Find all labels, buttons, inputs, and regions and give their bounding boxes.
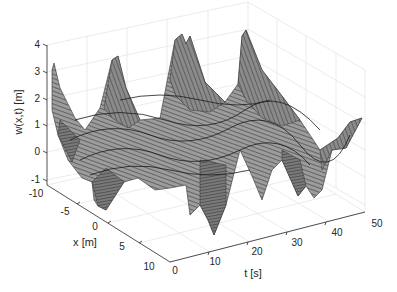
- z-tick: 0: [34, 146, 40, 157]
- z-tick: -1: [31, 174, 40, 185]
- t-tick: 20: [251, 246, 263, 257]
- z-tick: 1: [34, 119, 40, 130]
- x-tick: 5: [119, 241, 125, 252]
- z-tick: 3: [34, 66, 40, 77]
- z-tick: 2: [34, 93, 40, 104]
- surface-plot: 4 3 2 1 0 -1 -10 -5 0 5 10 0 10 20 30 40…: [0, 0, 397, 292]
- t-tick: 50: [371, 218, 383, 229]
- x-tick: 10: [143, 261, 155, 272]
- x-tick: 0: [92, 221, 98, 232]
- t-axis-label: t [s]: [244, 267, 262, 279]
- x-tick: -5: [61, 206, 70, 217]
- x-axis-label: x [m]: [73, 236, 97, 248]
- t-tick: 10: [209, 256, 221, 267]
- t-tick: 40: [331, 227, 343, 238]
- x-tick: -10: [29, 188, 44, 199]
- z-tick: 4: [34, 39, 40, 50]
- z-axis-label: w(x,t) [m]: [12, 89, 24, 135]
- t-tick: 0: [172, 265, 178, 276]
- z-tick-labels: 4 3 2 1 0 -1: [31, 39, 40, 185]
- t-tick: 30: [291, 237, 303, 248]
